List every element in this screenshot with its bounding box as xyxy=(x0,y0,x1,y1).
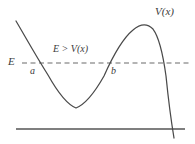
potential-curve-label: V(x) xyxy=(155,6,174,17)
right-turning-point-label: b xyxy=(111,66,116,76)
potential-curve xyxy=(16,21,174,138)
allowed-region-label: E > V(x) xyxy=(53,44,88,54)
potential-energy-figure: E E > V(x) a b V(x) xyxy=(0,0,195,144)
left-turning-point-label: a xyxy=(30,66,35,76)
energy-level-label: E xyxy=(8,56,15,67)
